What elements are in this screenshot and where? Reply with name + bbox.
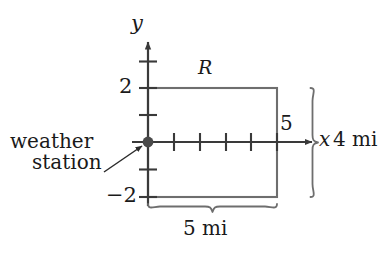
region-label-R: R	[198, 58, 212, 78]
x-axis-label: x	[319, 129, 330, 150]
x-tick-label-5: 5	[280, 113, 293, 134]
weather-station-point	[143, 137, 154, 148]
y-tick-label-2: 2	[119, 75, 132, 97]
y-axis-label: y	[131, 12, 143, 34]
annotation-leader-line	[104, 146, 142, 172]
horizontal-extent-brace	[148, 204, 277, 212]
horizontal-extent-label: 5 mi	[183, 218, 227, 239]
y-tick-label-negative-2: −2	[106, 184, 137, 206]
weather-station-annotation-line2: station	[10, 152, 102, 173]
vertical-extent-label: 4 mi	[333, 129, 377, 150]
weather-station-region-figure: y x R 2 −2 5 4 mi 5 mi weatherstation	[0, 0, 389, 259]
weather-station-annotation: weatherstation	[10, 131, 102, 173]
